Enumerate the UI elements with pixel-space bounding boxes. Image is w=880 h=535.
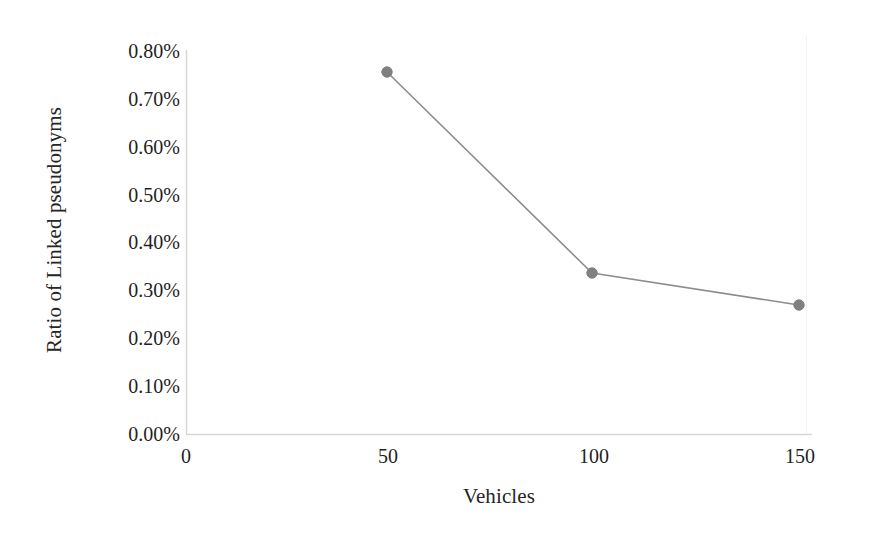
y-tick-label: 0.40%	[88, 232, 180, 252]
x-tick-label: 150	[785, 445, 815, 467]
y-tick-label: 0.70%	[88, 89, 180, 109]
data-point-marker	[382, 67, 392, 77]
x-tick-label: 50	[378, 445, 398, 467]
data-point-marker	[794, 300, 804, 310]
data-point-marker	[587, 268, 597, 278]
x-axis-tick-labels: 050100150	[0, 445, 880, 471]
y-tick-label: 0.80%	[88, 41, 180, 61]
x-tick-label: 100	[579, 445, 609, 467]
y-axis-title: Ratio of Linked pseudonyms	[30, 10, 78, 450]
y-tick-label: 0.60%	[88, 137, 180, 157]
line-chart-figure: 0.80%0.70%0.60%0.50%0.40%0.30%0.20%0.10%…	[0, 0, 880, 535]
plot-background	[186, 36, 812, 434]
y-tick-label: 0.10%	[88, 376, 180, 396]
y-tick-label: 0.50%	[88, 185, 180, 205]
y-tick-label: 0.00%	[88, 424, 180, 444]
x-tick-label: 0	[181, 445, 191, 467]
y-tick-label: 0.30%	[88, 280, 180, 300]
x-axis-title: Vehicles	[186, 484, 812, 509]
y-tick-label: 0.20%	[88, 328, 180, 348]
